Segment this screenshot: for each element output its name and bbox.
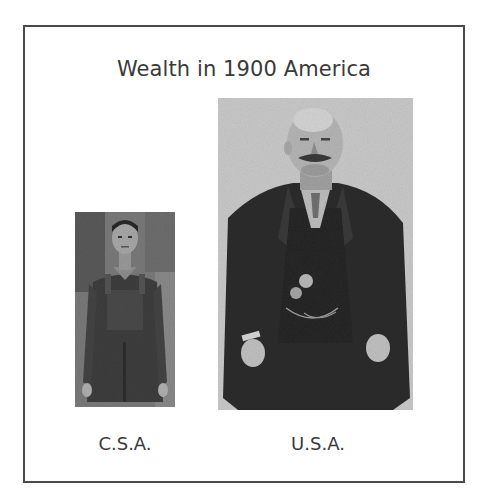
worker-photo-image [75, 212, 175, 407]
usa-wealthy-man-photo [218, 98, 413, 410]
wealthy-man-photo-image [218, 98, 413, 410]
csa-caption: C.S.A. [75, 432, 175, 456]
slide-title: Wealth in 1900 America [25, 55, 463, 83]
usa-caption: U.S.A. [268, 432, 368, 456]
csa-worker-photo [75, 212, 175, 407]
slide-frame: Wealth in 1900 America [23, 25, 465, 483]
